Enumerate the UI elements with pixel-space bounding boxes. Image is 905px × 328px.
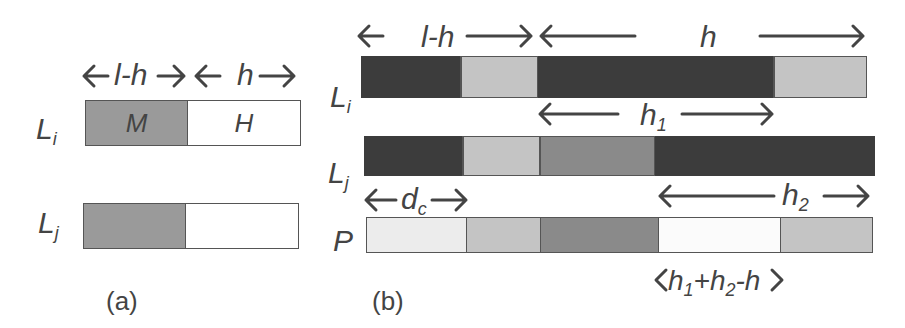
panel-b-li-label: Li — [330, 82, 351, 116]
panel-a-li-label: Li — [36, 114, 57, 148]
panel-b-overlap-label: h1+h2-h — [668, 267, 760, 299]
panel-a-h-label: h — [237, 60, 254, 90]
panel-a-lj-label: Lj — [38, 208, 59, 242]
panel-b-p-label: P — [333, 226, 353, 256]
segment-verylight — [367, 218, 467, 252]
panel-b-p-bar — [366, 217, 873, 253]
segment-light — [781, 218, 872, 252]
segment-m — [84, 204, 186, 248]
segment-white — [659, 218, 781, 252]
panel-b-caption: (b) — [372, 288, 404, 314]
segment-dark — [655, 136, 875, 176]
panel-b-h-label: h — [700, 22, 717, 52]
panel-a-lj-bar — [83, 203, 299, 249]
panel-a-l-minus-h-label: l-h — [114, 60, 147, 90]
panel-a-caption: (a) — [106, 288, 138, 314]
segment-dark — [538, 56, 774, 98]
segment-h — [186, 204, 298, 248]
segment-light — [461, 56, 538, 98]
panel-b-lj-label: Lj — [328, 158, 349, 192]
segment-m: M — [86, 101, 188, 145]
panel-a-li-bar: M H — [85, 100, 301, 146]
panel-b-h1-label: h1 — [640, 100, 667, 134]
panel-b-li-bar — [361, 56, 867, 98]
panel-b-h2-arrow — [656, 182, 878, 212]
segment-light — [467, 218, 541, 252]
panel-b-lj-bar — [364, 136, 875, 176]
segment-dark — [364, 136, 463, 176]
segment-medium — [540, 136, 655, 176]
segment-light — [463, 136, 540, 176]
segment-dark — [361, 56, 461, 98]
panel-b-h2-label: h2 — [782, 180, 809, 214]
segment-medium — [541, 218, 659, 252]
panel-b-l-minus-h-label: l-h — [421, 22, 454, 52]
segment-light — [774, 56, 867, 98]
panel-b-dc-label: dc — [401, 184, 427, 218]
segment-h: H — [188, 101, 300, 145]
